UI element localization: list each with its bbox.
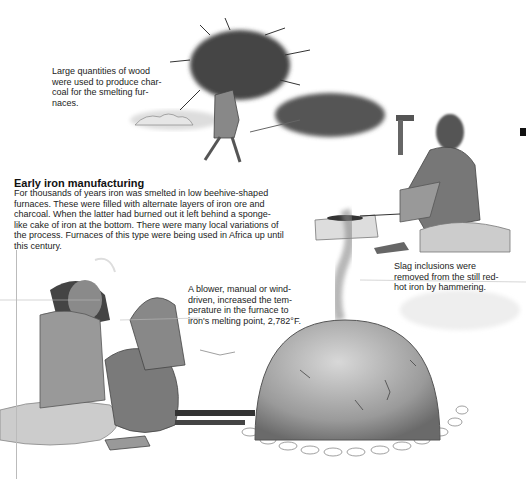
page: Large quantities of wood were used to pr…	[0, 0, 526, 479]
caption-slag: Slag inclusions were removed from the st…	[394, 261, 499, 293]
page-edge-mark	[520, 128, 526, 136]
furnace-illustration	[242, 320, 468, 456]
section-body: For thousands of years iron was smelted …	[14, 188, 284, 251]
caption-wood: Large quantities of wood were used to pr…	[52, 66, 162, 108]
caption-blower: A blower, manual or wind- driven, increa…	[188, 284, 301, 326]
page-gutter-line	[16, 250, 17, 479]
wood-carrier-illustration	[130, 18, 385, 162]
